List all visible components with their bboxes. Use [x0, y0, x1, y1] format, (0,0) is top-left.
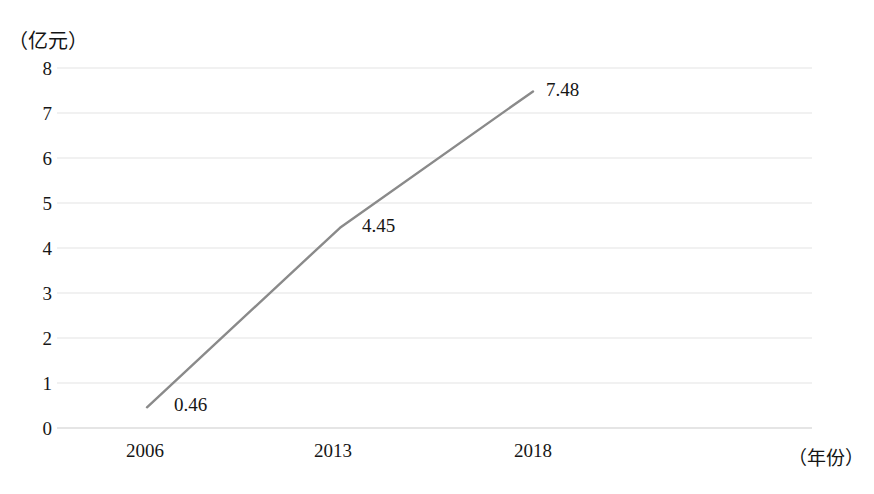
- y-tick-5: 5: [22, 193, 52, 215]
- gridlines: [57, 68, 812, 383]
- y-tick-1: 1: [22, 373, 52, 395]
- y-axis-unit-label: （亿元）: [8, 25, 88, 54]
- y-tick-2: 2: [22, 328, 52, 350]
- data-label-2013: 4.45: [362, 215, 395, 237]
- y-tick-8: 8: [22, 58, 52, 80]
- y-tick-4: 4: [22, 238, 52, 260]
- data-label-2018: 7.48: [546, 79, 579, 101]
- y-tick-3: 3: [22, 283, 52, 305]
- y-tick-6: 6: [22, 148, 52, 170]
- x-tick-2013: 2013: [273, 440, 393, 462]
- data-series-line: [147, 91, 533, 407]
- chart-page: （亿元） （年份） 8 7 6 5 4 3 2 1 0 2006 2013 20…: [0, 0, 874, 494]
- y-tick-7: 7: [22, 103, 52, 125]
- y-tick-0: 0: [22, 418, 52, 440]
- x-tick-2018: 2018: [473, 440, 593, 462]
- data-label-2006: 0.46: [174, 394, 207, 416]
- line-chart: （亿元） （年份） 8 7 6 5 4 3 2 1 0 2006 2013 20…: [0, 0, 874, 494]
- chart-plot-area: [0, 0, 874, 494]
- x-tick-2006: 2006: [85, 440, 205, 462]
- x-axis-unit-label: （年份）: [788, 443, 864, 470]
